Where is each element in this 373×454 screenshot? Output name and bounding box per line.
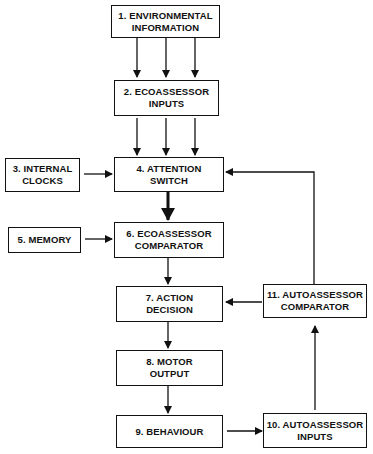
node-memory: 5. MEMORY — [8, 227, 81, 253]
node-label: 9. BEHAVIOUR — [135, 426, 203, 438]
node-action-decision: 7. ACTION DECISION — [116, 286, 223, 322]
node-attention-switch: 4. ATTENTION SWITCH — [114, 157, 224, 192]
node-label: 4. ATTENTION SWITCH — [136, 163, 201, 187]
node-label: 6. ECOASSESSOR COMPARATOR — [126, 228, 211, 252]
node-autoassessor-comparator: 11. AUTOASSESSOR COMPARATOR — [263, 284, 367, 318]
node-motor-output: 8. MOTOR OUTPUT — [116, 350, 223, 386]
node-environmental-information: 1. ENVIRONMENTAL INFORMATION — [111, 5, 220, 38]
node-ecoassessor-comparator: 6. ECOASSESSOR COMPARATOR — [114, 222, 224, 258]
node-label: 5. MEMORY — [18, 234, 72, 246]
node-label: 2. ECOASSESSOR INPUTS — [124, 86, 209, 110]
node-internal-clocks: 3. INTERNAL CLOCKS — [5, 158, 80, 192]
node-label: 11. AUTOASSESSOR COMPARATOR — [267, 289, 363, 313]
node-label: 3. INTERNAL CLOCKS — [13, 163, 73, 187]
node-ecoassessor-inputs: 2. ECOASSESSOR INPUTS — [114, 80, 219, 116]
node-label: 7. ACTION DECISION — [146, 292, 194, 316]
node-label: 10. AUTOASSESSOR INPUTS — [267, 419, 364, 443]
node-autoassessor-inputs: 10. AUTOASSESSOR INPUTS — [263, 413, 367, 448]
node-behaviour: 9. BEHAVIOUR — [116, 415, 223, 448]
node-label: 1. ENVIRONMENTAL INFORMATION — [118, 10, 212, 34]
node-label: 8. MOTOR OUTPUT — [146, 356, 193, 380]
